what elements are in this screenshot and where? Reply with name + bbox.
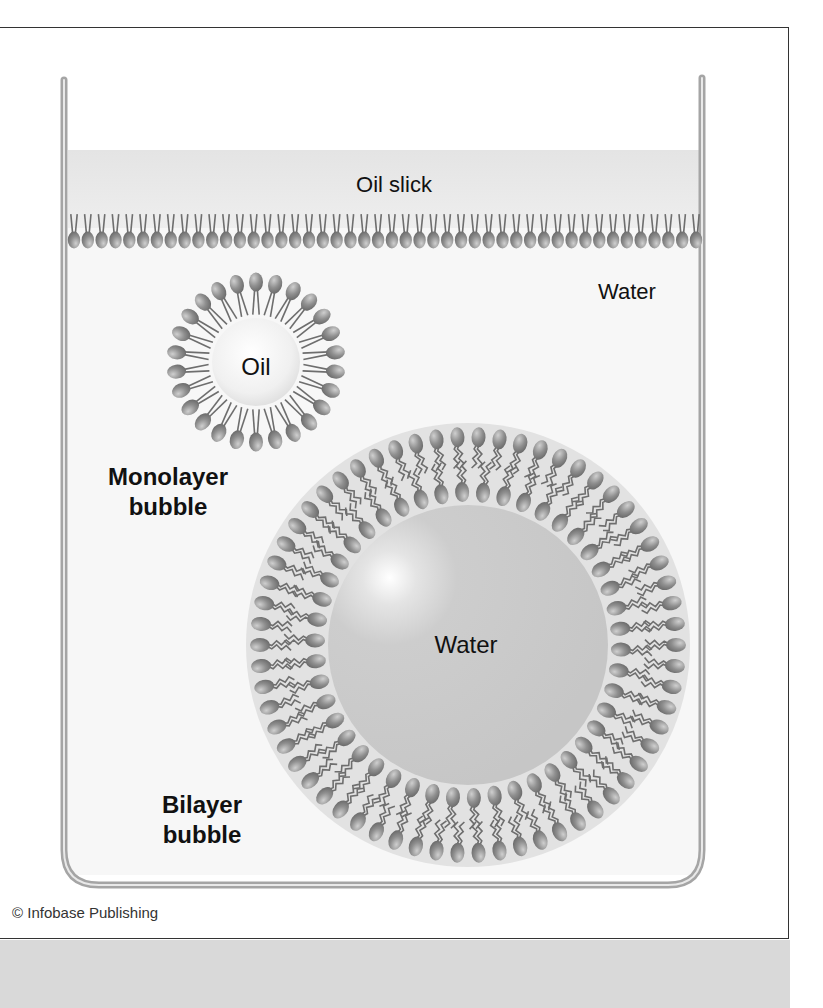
water-label: Water — [598, 279, 656, 305]
water-core-label: Water — [434, 631, 497, 659]
bilayer-bubble-label: Bilayer bubble — [162, 790, 242, 850]
oil-slick-label: Oil slick — [356, 172, 432, 198]
monolayer-label-line2: bubble — [108, 492, 228, 522]
bilayer-label-line1: Bilayer — [162, 790, 242, 820]
monolayer-bubble-label: Monolayer bubble — [108, 462, 228, 522]
copyright-credit: © Infobase Publishing — [12, 904, 158, 921]
bilayer-label-line2: bubble — [162, 820, 242, 850]
monolayer-label-line1: Monolayer — [108, 462, 228, 492]
oil-core-label: Oil — [241, 353, 270, 381]
